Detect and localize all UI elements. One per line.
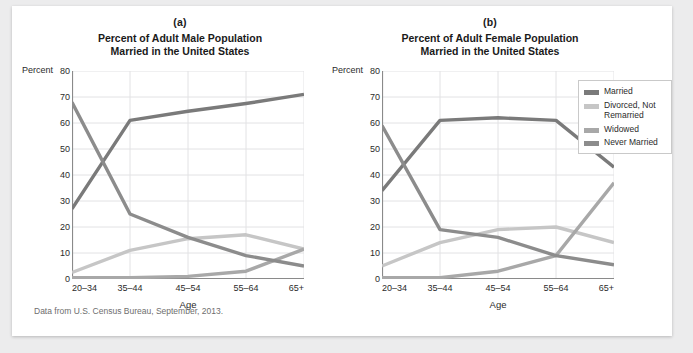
x-axis-tick-label: 35–44 [427,283,452,293]
x-axis-tick-label: 20–34 [382,283,407,293]
legend-swatch-icon [584,128,599,133]
y-axis-tick-label: 50 [60,144,70,154]
legend-item-label: Married [604,86,633,97]
x-axis-tick-label: 35–44 [117,283,142,293]
figure-caption: Data from U.S. Census Bureau, September,… [34,306,223,316]
y-axis-tick-label: 20 [60,222,70,232]
legend-swatch-icon [584,104,599,109]
y-axis-tick-label: 40 [370,170,380,180]
y-axis-tick-label: 60 [60,118,70,128]
y-axis-tick-label: 0 [65,274,70,284]
x-axis-tick-label: 20–34 [72,283,97,293]
x-axis-tick-label: 65+ [599,283,614,293]
panel-a-title: Percent of Adult Male Population Married… [20,32,340,58]
y-axis-tick-label: 30 [60,196,70,206]
legend-item-label: Divorced, Not Remarried [604,100,664,121]
y-axis-tick-label: 70 [60,92,70,102]
legend-item-label: Never Married [604,137,658,148]
x-axis-tick-label: 65+ [289,283,304,293]
panel-a-title-line1: Percent of Adult Male Population [20,32,340,45]
legend-item[interactable]: Never Married [584,137,664,148]
panel-b-letter: (b) [330,16,650,28]
y-axis-tick-label: 20 [370,222,380,232]
figure-card: (a) Percent of Adult Male Population Mar… [12,6,672,336]
panel-b-xticks: 20–3435–4445–5455–6465+ [382,283,614,299]
panel-a-svg [72,71,304,279]
y-axis-tick-label: 50 [370,144,380,154]
y-axis-tick-label: 60 [370,118,380,128]
y-axis-tick-label: 80 [370,66,380,76]
x-axis-tick-label: 45–54 [485,283,510,293]
chart-panels: (a) Percent of Adult Male Population Mar… [12,6,672,306]
chart-legend: MarriedDivorced, Not RemarriedWidowedNev… [578,80,672,154]
legend-item[interactable]: Widowed [584,124,664,135]
x-axis-tick-label: 55–64 [233,283,258,293]
chart-panel-b: (b) Percent of Adult Female Population M… [330,6,650,306]
y-axis-tick-label: 70 [370,92,380,102]
panel-a-yticks: 01020304050607080 [46,65,70,285]
panel-b-yticks: 01020304050607080 [356,65,380,285]
y-axis-tick-label: 0 [375,274,380,284]
legend-swatch-icon [584,141,599,146]
y-axis-tick-label: 10 [370,248,380,258]
panel-b-title: Percent of Adult Female Population Marri… [330,32,650,58]
x-axis-tick-label: 55–64 [543,283,568,293]
legend-item[interactable]: Married [584,86,664,97]
legend-item-label: Widowed [604,124,639,135]
x-axis-tick-label: 45–54 [175,283,200,293]
y-axis-tick-label: 30 [370,196,380,206]
y-axis-tick-label: 10 [60,248,70,258]
panel-a-plot [72,71,304,279]
panel-a-xticks: 20–3435–4445–5455–6465+ [72,283,304,299]
panel-a-plot-area: Percent 01020304050607080 20–3435–4445–5… [20,65,340,295]
y-axis-tick-label: 80 [60,66,70,76]
panel-b-title-line2: Married in the United States [330,45,650,58]
chart-panel-a: (a) Percent of Adult Male Population Mar… [20,6,340,306]
panel-b-title-line1: Percent of Adult Female Population [330,32,650,45]
panel-a-letter: (a) [20,16,340,28]
panel-a-title-line2: Married in the United States [20,45,340,58]
y-axis-tick-label: 40 [60,170,70,180]
legend-swatch-icon [584,90,599,95]
panel-b-xlabel: Age [382,299,614,310]
legend-item[interactable]: Divorced, Not Remarried [584,100,664,121]
